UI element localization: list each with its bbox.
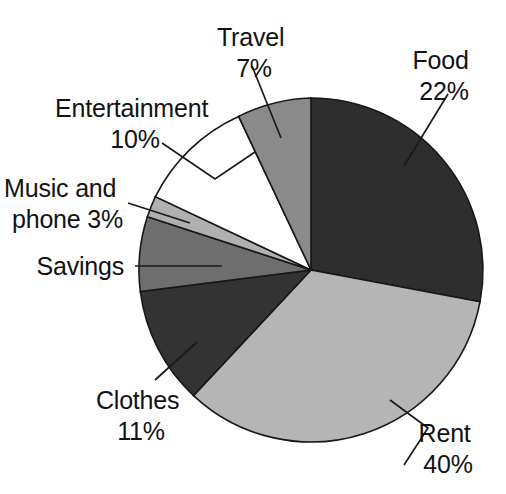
label-savings-line1: Savings [36, 252, 124, 280]
label-rent-line2: 40% [423, 450, 472, 478]
label-food-line2: 22% [419, 77, 468, 105]
label-entertainment: Entertainment 10% [55, 94, 215, 153]
pie-slices [139, 98, 483, 442]
label-rent-line1: Rent [419, 419, 471, 447]
label-entertainment-line2: 10% [110, 125, 159, 153]
label-travel-line1: Travel [217, 23, 284, 51]
label-music-and-phone-line1: Music and [4, 174, 116, 202]
label-rent: Rent 40% [419, 419, 478, 478]
label-entertainment-line1: Entertainment [55, 94, 208, 122]
label-music-and-phone-line2: phone 3% [12, 205, 123, 233]
pie-chart-svg: Travel 7% Food 22% Entertainment 10% Mus… [0, 0, 506, 494]
label-music-and-phone: Music and phone 3% [4, 174, 123, 233]
label-clothes-line2: 11% [117, 417, 165, 445]
label-clothes: Clothes 11% [96, 386, 186, 445]
label-food: Food 22% [413, 46, 476, 105]
pie-slice-food[interactable] [311, 98, 483, 302]
label-travel: Travel 7% [217, 23, 291, 82]
label-clothes-line1: Clothes [96, 386, 179, 414]
label-food-line1: Food [413, 46, 469, 74]
label-travel-line2: 7% [236, 54, 272, 82]
pie-chart: Travel 7% Food 22% Entertainment 10% Mus… [0, 0, 506, 494]
label-savings: Savings [36, 252, 124, 280]
